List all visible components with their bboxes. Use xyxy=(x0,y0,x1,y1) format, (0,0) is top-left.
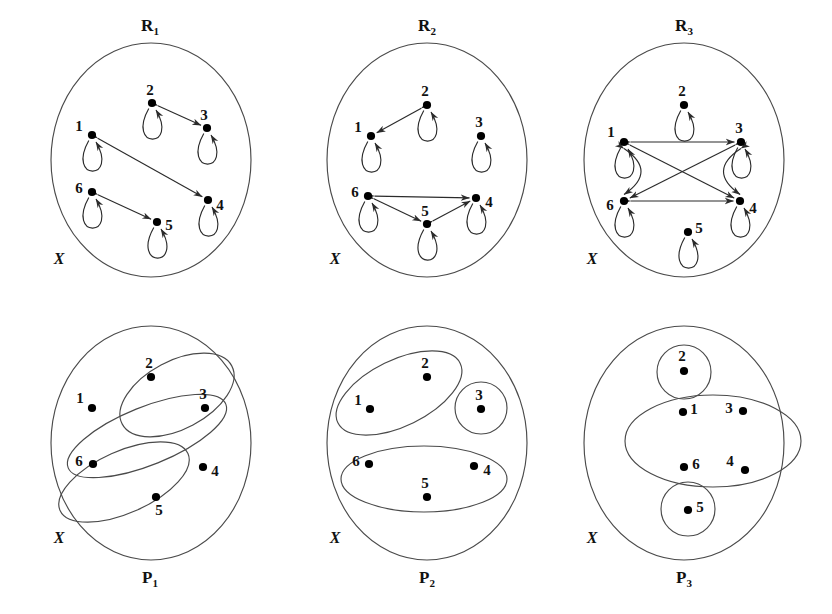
node-label-R3-6: 6 xyxy=(606,197,614,213)
node-label-R3-2: 2 xyxy=(678,83,686,99)
universe-label-R2: X xyxy=(329,250,341,267)
node-label-R1-4: 4 xyxy=(216,197,224,213)
node-R1-6 xyxy=(88,188,96,196)
node-label-P1-1: 1 xyxy=(76,390,84,406)
node-label-P3-1: 1 xyxy=(690,401,698,417)
self-loop-R2-5 xyxy=(418,230,437,261)
partition-block-P1-1 xyxy=(57,377,236,494)
universe-label-R3: X xyxy=(586,250,598,267)
self-loops xyxy=(83,109,751,269)
node-R1-5 xyxy=(153,218,161,226)
panel-label-letter: P xyxy=(676,568,686,587)
self-loop-R1-3 xyxy=(198,134,217,165)
edge-R2-5-4 xyxy=(433,201,471,221)
node-label-R1-2: 2 xyxy=(146,82,154,98)
node-P3-4 xyxy=(741,466,749,474)
node-label-P2-2: 2 xyxy=(421,355,429,371)
node-P1-5 xyxy=(152,493,160,501)
node-R2-5 xyxy=(423,220,431,228)
node-R2-1 xyxy=(367,132,375,140)
panel-label-subscript: 3 xyxy=(686,577,692,589)
node-P3-1 xyxy=(679,408,687,416)
node-label-P2-1: 1 xyxy=(354,392,362,408)
node-R3-4 xyxy=(736,197,744,205)
edge-R3-1-6 xyxy=(624,149,641,195)
partition-block-P3-1 xyxy=(625,395,801,487)
node-label-R1-1: 1 xyxy=(75,118,83,134)
node-R2-2 xyxy=(423,101,431,109)
panel-label-subscript: 2 xyxy=(430,25,436,37)
node-P3-5 xyxy=(684,506,692,514)
self-loop-R3-5 xyxy=(679,238,698,269)
edge-R2-6-5 xyxy=(374,199,421,221)
panel-label-letter: R xyxy=(141,16,154,35)
edge-R3-3-4 xyxy=(724,148,741,194)
node-label-R2-1: 1 xyxy=(354,119,362,135)
self-loop-R3-4 xyxy=(731,207,750,238)
self-loop-R3-6 xyxy=(615,207,634,238)
node-R3-3 xyxy=(737,138,745,146)
node-label-P3-2: 2 xyxy=(678,348,686,364)
node-R3-6 xyxy=(620,197,628,205)
self-loop-R2-3 xyxy=(472,142,491,173)
node-P1-1 xyxy=(88,404,96,412)
edge-R1-2-3 xyxy=(158,106,201,126)
node-P1-3 xyxy=(201,404,209,412)
edge-R2-2-1 xyxy=(377,108,422,133)
panel-label-letter: R xyxy=(675,16,688,35)
node-label-P1-5: 5 xyxy=(155,502,163,518)
region-circle-R2 xyxy=(327,43,527,277)
node-P2-1 xyxy=(366,405,374,413)
figure-canvas: R1XR2XR3XP1XP2XP3X1234561234561234561234… xyxy=(0,0,832,614)
node-P2-3 xyxy=(477,405,485,413)
panel-label-subscript: 2 xyxy=(429,577,435,589)
node-R1-3 xyxy=(203,124,211,132)
universe-label-P1: X xyxy=(53,529,65,546)
panel-label-letter: P xyxy=(142,568,152,587)
universe-label-R1: X xyxy=(53,250,65,267)
node-P1-6 xyxy=(89,460,97,468)
self-loop-R2-4 xyxy=(467,204,486,235)
panel-label-P2: P2 xyxy=(419,568,435,589)
node-label-R2-3: 3 xyxy=(475,114,483,130)
node-label-R3-5: 5 xyxy=(695,220,703,236)
node-label-R1-3: 3 xyxy=(200,107,208,123)
panel-label-subscript: 1 xyxy=(153,25,159,37)
node-P3-2 xyxy=(680,367,688,375)
panel-label-R3: R3 xyxy=(675,16,693,37)
node-R1-4 xyxy=(204,196,212,204)
relations-partitions-diagram: R1XR2XR3XP1XP2XP3X1234561234561234561234… xyxy=(0,0,832,614)
panel-label-P1: P1 xyxy=(142,568,158,589)
node-R3-1 xyxy=(620,138,628,146)
node-R2-3 xyxy=(477,132,485,140)
edge-R1-1-4 xyxy=(98,138,203,197)
panel-label-P3: P3 xyxy=(676,568,692,589)
node-P3-3 xyxy=(739,407,747,415)
node-label-R3-3: 3 xyxy=(735,120,743,136)
node-label-P2-6: 6 xyxy=(352,453,360,469)
panel-label-letter: R xyxy=(418,16,431,35)
self-loop-R3-3 xyxy=(732,148,751,179)
node-P2-6 xyxy=(365,460,373,468)
relation-edges xyxy=(98,106,741,222)
node-P1-4 xyxy=(199,463,207,471)
node-label-P2-5: 5 xyxy=(421,475,429,491)
node-label-R2-5: 5 xyxy=(421,203,429,219)
node-label-P1-6: 6 xyxy=(75,453,83,469)
node-label-P3-4: 4 xyxy=(726,453,734,469)
partition-block-P1-2 xyxy=(47,425,200,539)
node-P2-2 xyxy=(423,373,431,381)
node-label-P3-5: 5 xyxy=(696,499,704,515)
partition-block-P1-0 xyxy=(106,336,247,454)
self-loop-R2-1 xyxy=(362,142,381,173)
self-loop-R1-4 xyxy=(199,206,218,237)
self-loop-R1-6 xyxy=(83,198,102,229)
universe-label-P3: X xyxy=(586,529,598,546)
partition-block-P2-0 xyxy=(323,334,474,453)
panel-label-R2: R2 xyxy=(418,16,436,37)
self-loop-R2-6 xyxy=(359,202,378,233)
self-loop-R1-1 xyxy=(83,141,102,172)
node-label-P2-4: 4 xyxy=(483,462,491,478)
node-P3-6 xyxy=(680,463,688,471)
self-loop-R1-2 xyxy=(143,109,162,140)
